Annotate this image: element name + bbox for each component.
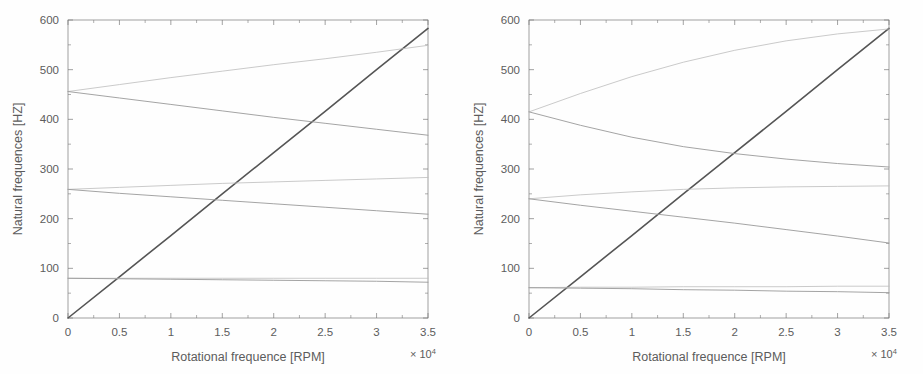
x-tick-label: 3.5	[881, 326, 897, 338]
x-tick-label: 0.5	[572, 326, 588, 338]
x-tick-label: 0	[65, 326, 71, 338]
x-axis-title: Rotational frequence [RPM]	[632, 350, 786, 364]
x-tick-label: 3	[373, 326, 379, 338]
y-tick-label: 500	[501, 64, 520, 76]
data-series-line	[529, 288, 889, 293]
figure-pair-campbell-diagrams: 00.511.522.533.50100200300400500600Rotat…	[0, 0, 923, 374]
y-axis-title: Natural frequences [HZ]	[11, 103, 25, 236]
data-series-line	[68, 189, 428, 214]
plot-canvas-left: 00.511.522.533.50100200300400500600Rotat…	[0, 0, 462, 374]
data-series-line	[68, 278, 428, 282]
x-tick-label: 3.5	[420, 326, 436, 338]
x-tick-label: 2	[732, 326, 738, 338]
data-series-line	[68, 177, 428, 189]
data-series-line	[529, 199, 889, 243]
data-series-line	[68, 28, 428, 318]
x-axis-exponent: × 104	[410, 347, 436, 360]
y-tick-label: 100	[501, 262, 520, 274]
x-tick-label: 1	[629, 326, 635, 338]
data-series-line	[68, 45, 428, 91]
plot-canvas-right: 00.511.522.533.50100200300400500600Rotat…	[461, 0, 923, 374]
y-tick-label: 200	[501, 213, 520, 225]
y-tick-label: 600	[501, 14, 520, 26]
y-tick-label: 300	[40, 163, 59, 175]
x-axis-title: Rotational frequence [RPM]	[171, 350, 325, 364]
data-series-line	[529, 29, 889, 112]
y-axis-title: Natural frequences [HZ]	[472, 103, 486, 236]
x-tick-label: 1.5	[675, 326, 691, 338]
campbell-diagram-right: 00.511.522.533.50100200300400500600Rotat…	[461, 0, 923, 374]
y-tick-label: 400	[501, 113, 520, 125]
x-tick-label: 1	[168, 326, 174, 338]
data-series-line	[529, 112, 889, 167]
x-tick-label: 2.5	[317, 326, 333, 338]
plot-frame	[68, 20, 428, 318]
y-tick-label: 500	[40, 64, 59, 76]
x-axis-exponent: × 104	[871, 347, 897, 360]
y-tick-label: 400	[40, 113, 59, 125]
data-series-line	[529, 286, 889, 287]
x-tick-label: 0.5	[111, 326, 127, 338]
data-series-line	[68, 92, 428, 136]
y-tick-label: 0	[53, 312, 59, 324]
y-tick-label: 200	[40, 213, 59, 225]
x-tick-label: 3	[834, 326, 840, 338]
y-tick-label: 300	[501, 163, 520, 175]
y-tick-label: 600	[40, 14, 59, 26]
data-series-line	[529, 28, 889, 318]
y-tick-label: 0	[514, 312, 520, 324]
x-tick-label: 2.5	[778, 326, 794, 338]
campbell-diagram-left: 00.511.522.533.50100200300400500600Rotat…	[0, 0, 462, 374]
data-series-line	[529, 186, 889, 199]
x-tick-label: 0	[526, 326, 532, 338]
plot-frame	[529, 20, 889, 318]
x-tick-label: 2	[271, 326, 277, 338]
x-tick-label: 1.5	[214, 326, 230, 338]
y-tick-label: 100	[40, 262, 59, 274]
